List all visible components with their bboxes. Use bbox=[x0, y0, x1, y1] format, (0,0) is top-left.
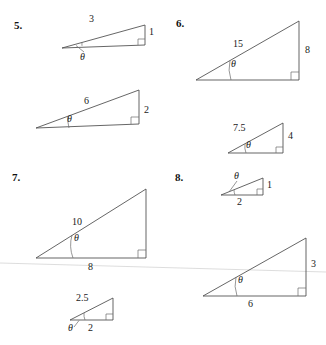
worksheet-page: 5. 3 1 θ 6 2 θ 6. 15 8 θ 7.5 4 θ 7. 10 8… bbox=[0, 0, 326, 345]
label-p7-small-horizontal: 2 bbox=[88, 322, 93, 333]
triangle-p8-small bbox=[221, 178, 263, 195]
label-p5-small-vertical: 1 bbox=[149, 26, 154, 37]
label-p5-small-hypotenuse: 3 bbox=[89, 13, 94, 24]
label-p7-small-theta: θ bbox=[68, 322, 73, 333]
worksheet-linework bbox=[0, 0, 326, 345]
label-p8-small-theta: θ bbox=[234, 170, 239, 181]
label-p8-small-horizontal: 2 bbox=[237, 196, 242, 207]
label-p6-small-hypotenuse: 7.5 bbox=[233, 122, 246, 133]
problem-number-8: 8. bbox=[175, 171, 183, 183]
problem-number-5: 5. bbox=[14, 19, 22, 31]
label-p6-large-theta: θ bbox=[231, 58, 236, 69]
label-p7-large-theta: θ bbox=[74, 232, 79, 243]
label-p5-small-theta: θ bbox=[80, 51, 85, 62]
triangle-p7-large bbox=[36, 189, 146, 258]
label-p7-large-horizontal: 8 bbox=[88, 261, 93, 272]
label-p5-large-hypotenuse: 6 bbox=[84, 95, 89, 106]
scan-artifact-line bbox=[0, 263, 326, 272]
problem-number-6: 6. bbox=[176, 17, 184, 29]
label-p8-small-vertical: 1 bbox=[267, 179, 272, 190]
label-p5-large-vertical: 2 bbox=[144, 104, 149, 115]
label-p7-small-hypotenuse: 2.5 bbox=[76, 292, 89, 303]
label-p8-large-horizontal: 6 bbox=[248, 298, 253, 309]
triangle-p5-small bbox=[62, 25, 145, 52]
label-p8-large-theta: θ bbox=[238, 274, 243, 285]
label-p6-small-vertical: 4 bbox=[288, 130, 293, 141]
label-p6-small-theta: θ bbox=[246, 139, 251, 150]
problem-number-7: 7. bbox=[12, 171, 20, 183]
label-p6-large-hypotenuse: 15 bbox=[233, 38, 243, 49]
triangle-p6-large bbox=[196, 21, 299, 80]
triangle-p8-large bbox=[203, 238, 306, 296]
label-p8-large-vertical: 3 bbox=[311, 258, 316, 269]
label-p5-large-theta: θ bbox=[67, 113, 72, 124]
label-p6-large-vertical: 8 bbox=[305, 44, 310, 55]
label-p7-large-hypotenuse: 10 bbox=[72, 216, 82, 227]
